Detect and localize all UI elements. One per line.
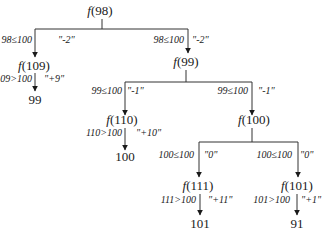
- cond-f100-right: 100≤100: [257, 149, 293, 160]
- cond-f111: 111>100: [161, 194, 196, 205]
- result-100: 100: [115, 149, 135, 164]
- cond-f101: 101>100: [253, 194, 290, 205]
- node-f99: f(99): [173, 54, 198, 69]
- cond-f100-left: 100≤100: [159, 149, 195, 160]
- cond-f99-left: 99≤100: [92, 85, 123, 96]
- label-root-left: "-2": [58, 34, 76, 45]
- cond-f110: 110>100: [86, 127, 122, 138]
- label-f101: "+1": [301, 194, 322, 205]
- node-f100: f(100): [238, 112, 270, 127]
- node-f98: f(98): [87, 3, 112, 18]
- result-101: 101: [190, 216, 210, 231]
- cond-root-left: 98≤100: [2, 34, 33, 45]
- label-f109: "+9": [44, 73, 65, 84]
- node-f110: f(110): [106, 112, 137, 127]
- cond-f99-right: 99≤100: [218, 85, 249, 96]
- label-f111: "+11": [208, 194, 233, 205]
- node-f109: f(109): [18, 58, 50, 73]
- label-f99-left: "-1": [127, 85, 145, 96]
- result-91: 91: [291, 216, 304, 231]
- node-f111: f(111): [183, 178, 214, 193]
- cond-root-right: 98≤100: [154, 34, 185, 45]
- cond-f109: 109>100: [0, 73, 32, 84]
- result-99: 99: [29, 92, 42, 107]
- label-f99-right: "-1": [258, 85, 276, 96]
- label-f100-right: "0": [300, 149, 314, 160]
- label-root-right: "-2": [192, 34, 210, 45]
- label-f100-left: "0": [204, 149, 218, 160]
- call-tree-diagram: f(98) 98≤100 "-2" 98≤100 "-2" f(109) 109…: [0, 0, 330, 235]
- node-f101: f(101): [281, 178, 313, 193]
- label-f110: "+10": [136, 127, 162, 138]
